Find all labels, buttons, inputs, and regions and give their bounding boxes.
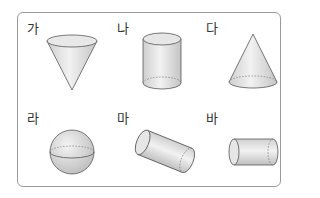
tilted-cylinder-shape: [131, 126, 197, 176]
label-ga: 가: [27, 22, 39, 35]
sphere-shape: [49, 129, 95, 175]
horizontal-cylinder-shape: [228, 138, 280, 168]
cone-shape: [228, 34, 280, 90]
inverted-cone-shape: [45, 33, 101, 91]
cylinder-shape: [141, 33, 183, 91]
label-na: 나: [117, 22, 129, 35]
label-da: 다: [206, 22, 218, 35]
label-ra: 라: [27, 112, 39, 125]
label-ba: 바: [206, 112, 218, 125]
label-ma: 마: [117, 112, 129, 125]
